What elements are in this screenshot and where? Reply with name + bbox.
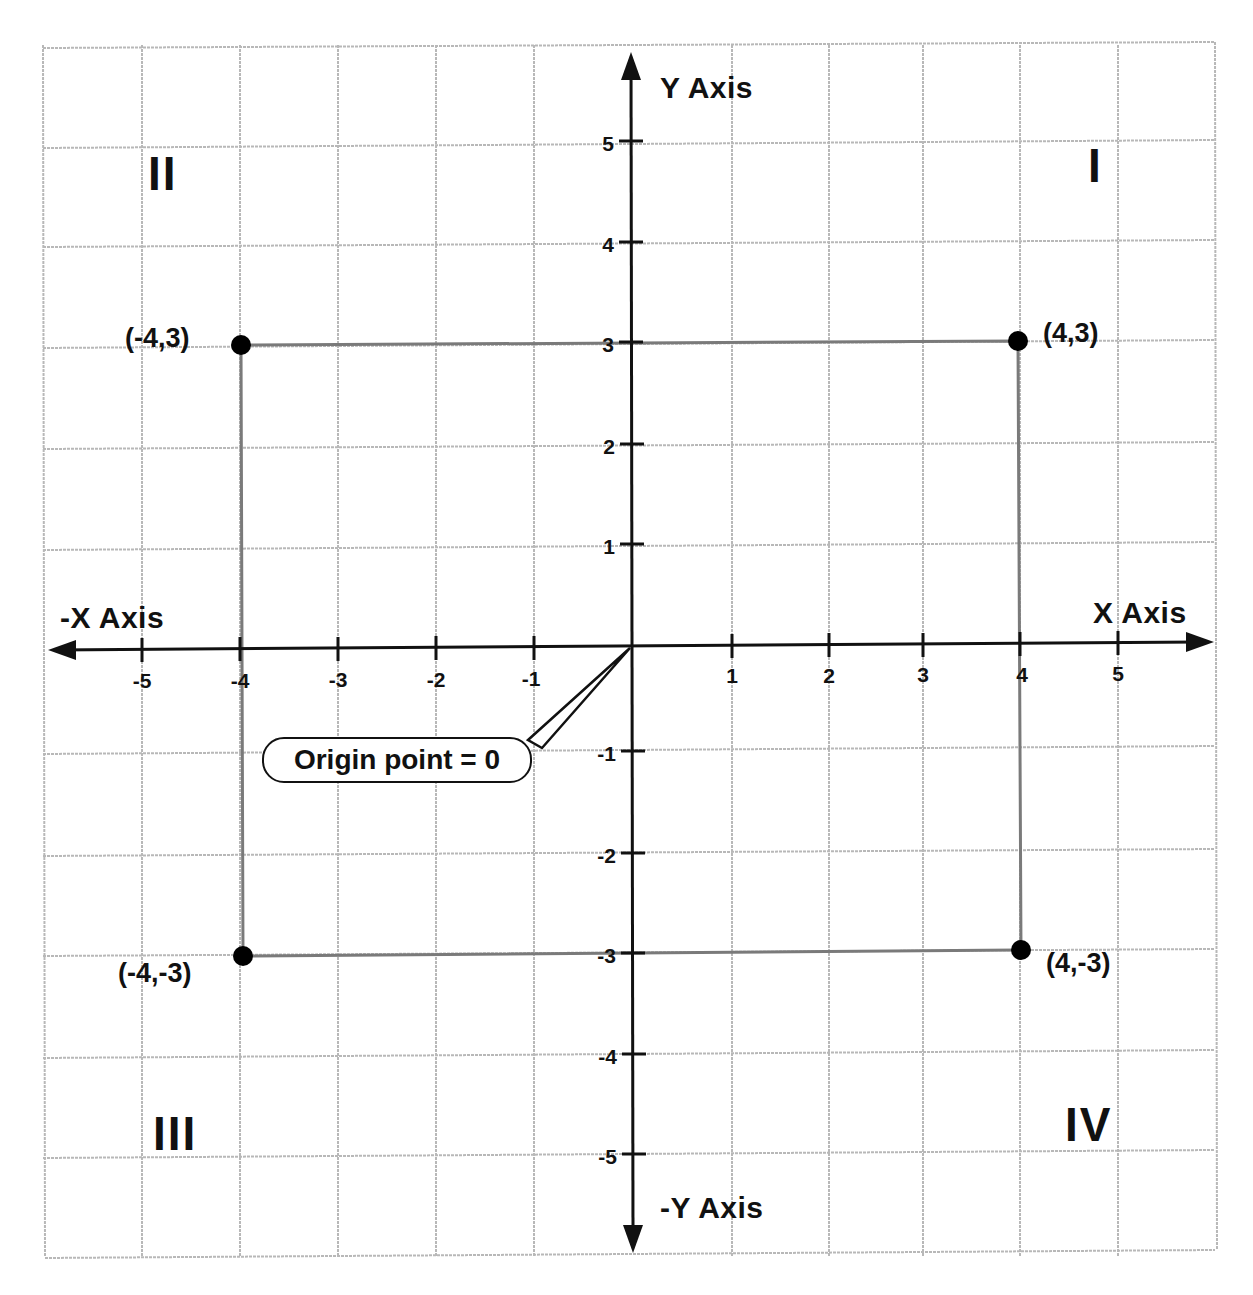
origin-callout-pointer bbox=[528, 648, 630, 748]
y-axis bbox=[631, 62, 633, 1235]
point-neg4-3 bbox=[231, 335, 251, 355]
quadrant-label-iii: III bbox=[153, 1109, 197, 1157]
y-tick-label: 2 bbox=[575, 436, 615, 457]
y-tick-label: 1 bbox=[575, 536, 615, 557]
x-tick-label: -1 bbox=[522, 668, 541, 689]
x-axis-title: X Axis bbox=[1093, 598, 1187, 628]
point-label: (-4,-3) bbox=[118, 960, 192, 987]
neg-y-axis-title: -Y Axis bbox=[660, 1193, 764, 1223]
y-tick-label: -4 bbox=[577, 1046, 617, 1067]
x-tick-label: 4 bbox=[1016, 664, 1028, 685]
y-tick-label: 3 bbox=[574, 334, 614, 355]
quadrant-label-i: I bbox=[1088, 141, 1103, 189]
x-tick-label: -5 bbox=[133, 670, 152, 691]
point-4-neg3 bbox=[1011, 940, 1031, 960]
y-axis-down-arrow bbox=[623, 1225, 643, 1253]
x-tick-label: -4 bbox=[231, 670, 250, 691]
x-tick-label: 5 bbox=[1112, 663, 1124, 684]
y-tick-label: -5 bbox=[577, 1146, 617, 1167]
y-tick-label: 4 bbox=[574, 234, 614, 255]
point-label: (4,3) bbox=[1043, 320, 1099, 347]
quadrant-label-iv: IV bbox=[1065, 1100, 1112, 1148]
point-label: (-4,3) bbox=[125, 325, 190, 352]
x-tick-label: 1 bbox=[726, 665, 738, 686]
point-neg4-neg3 bbox=[233, 946, 253, 966]
y-tick-label: -1 bbox=[576, 743, 616, 764]
neg-x-axis-title: -X Axis bbox=[60, 603, 164, 633]
point-label: (4,-3) bbox=[1046, 950, 1111, 977]
y-tick-label: 5 bbox=[574, 133, 614, 154]
y-tick-label: -3 bbox=[576, 945, 616, 966]
x-tick-label: 2 bbox=[823, 665, 835, 686]
origin-callout: Origin point = 0 bbox=[262, 737, 532, 783]
y-axis-title: Y Axis bbox=[660, 73, 753, 103]
y-tick-label: -2 bbox=[576, 845, 616, 866]
x-tick-label: -2 bbox=[427, 669, 446, 690]
x-axis-left-arrow bbox=[48, 640, 76, 660]
x-tick-label: 3 bbox=[917, 664, 929, 685]
x-axis-right-arrow bbox=[1186, 632, 1214, 652]
y-axis-up-arrow bbox=[621, 52, 641, 80]
point-4-3 bbox=[1008, 331, 1028, 351]
x-tick-label: -3 bbox=[329, 669, 348, 690]
quadrant-label-ii: II bbox=[148, 149, 178, 197]
